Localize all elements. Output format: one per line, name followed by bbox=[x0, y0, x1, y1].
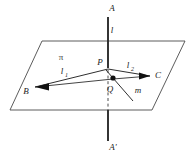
label-point-p: P bbox=[96, 57, 103, 67]
label-ray-l1-main: l bbox=[61, 66, 64, 76]
label-ray-l1-subscript: 1 bbox=[65, 72, 68, 78]
label-point-q: Q bbox=[107, 84, 114, 94]
label-plane-pi: π bbox=[59, 52, 64, 62]
label-point-b: B bbox=[23, 86, 29, 96]
label-ray-l2: l 2 bbox=[127, 60, 134, 72]
label-ray-l2-subscript: 2 bbox=[131, 66, 134, 72]
label-axis-top: A bbox=[108, 3, 115, 13]
label-ray-l1: l 1 bbox=[61, 66, 68, 78]
arrowhead-c bbox=[139, 73, 150, 80]
label-point-c: C bbox=[155, 70, 162, 80]
label-ray-m: m bbox=[135, 85, 142, 95]
label-line-l: l bbox=[111, 25, 114, 35]
point-q-dot bbox=[110, 75, 115, 80]
arrowhead-b bbox=[35, 83, 49, 90]
label-ray-l2-main: l bbox=[127, 60, 130, 70]
label-axis-bottom: A' bbox=[108, 142, 117, 152]
figure-canvas: A l A' π P Q B C l 1 l 2 m bbox=[0, 0, 189, 155]
geometry-figure: A l A' π P Q B C l 1 l 2 m bbox=[0, 0, 189, 155]
